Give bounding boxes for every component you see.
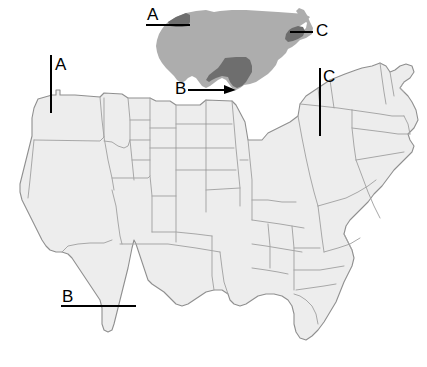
- main-callout-a-label: A: [55, 55, 67, 74]
- map-svg-canvas: A B C: [0, 0, 427, 367]
- inset-callout-a-label: A: [147, 5, 159, 24]
- main-map-outline: [20, 63, 418, 340]
- main-callout-b-label: B: [62, 287, 73, 306]
- main-us-map: A B C: [20, 55, 418, 340]
- inset-locator-map: A B C: [146, 5, 328, 98]
- main-callout-c-label: C: [323, 67, 335, 86]
- inset-callout-b-label: B: [175, 79, 186, 98]
- map-figure: A B C: [0, 0, 427, 367]
- inset-callout-c-label: C: [316, 21, 328, 40]
